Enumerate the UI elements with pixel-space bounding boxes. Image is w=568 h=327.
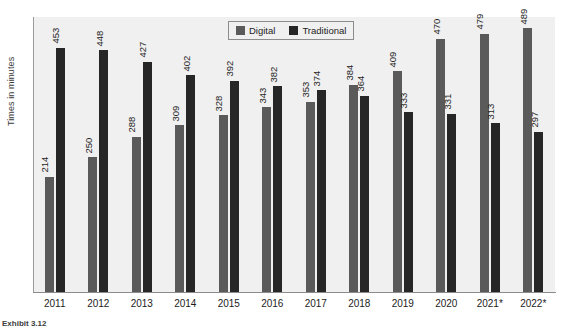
bar-digital-2021[interactable]: 479 <box>480 34 489 292</box>
bar-group: 384364 <box>349 17 369 292</box>
bar-traditional-2015[interactable]: 392 <box>230 81 239 292</box>
bar-value-label: 402 <box>181 55 191 71</box>
bar-value-label: 343 <box>257 87 267 103</box>
bar-value-label: 313 <box>486 103 496 119</box>
bar-value-label: 453 <box>51 28 61 44</box>
legend-label-traditional: Traditional <box>302 25 346 36</box>
bar-traditional-2013[interactable]: 427 <box>143 62 152 292</box>
bar-group: 409333 <box>393 17 413 292</box>
bar-group: 479313 <box>480 17 500 292</box>
bar-value-label: 392 <box>225 61 235 77</box>
bar-group: 288427 <box>132 17 152 292</box>
bar-traditional-2022[interactable]: 297 <box>534 132 543 292</box>
bar-value-label: 250 <box>83 137 93 153</box>
bar-traditional-2011[interactable]: 453 <box>56 48 65 292</box>
bar-value-label: 427 <box>138 42 148 58</box>
bar-value-label: 297 <box>529 112 539 128</box>
bar-traditional-2020[interactable]: 331 <box>447 114 456 292</box>
bar-group: 250448 <box>88 17 108 292</box>
bar-value-label: 309 <box>170 106 180 122</box>
bar-digital-2012[interactable]: 250 <box>88 157 97 292</box>
bar-digital-2022[interactable]: 489 <box>523 28 532 292</box>
bar-group: 343382 <box>262 17 282 292</box>
legend-item-traditional[interactable]: Traditional <box>289 25 346 36</box>
bar-value-label: 489 <box>518 8 528 24</box>
bar-digital-2018[interactable]: 384 <box>349 85 358 292</box>
bar-digital-2020[interactable]: 470 <box>436 39 445 292</box>
bar-value-label: 409 <box>388 52 398 68</box>
bar-traditional-2018[interactable]: 364 <box>360 96 369 292</box>
bar-group: 309402 <box>175 17 195 292</box>
bar-group: 489297 <box>523 17 543 292</box>
legend-item-digital[interactable]: Digital <box>236 25 275 36</box>
bar-value-label: 374 <box>312 70 322 86</box>
bar-value-label: 288 <box>127 117 137 133</box>
bar-group: 470331 <box>436 17 456 292</box>
bar-value-label: 479 <box>475 14 485 30</box>
bar-value-label: 382 <box>268 66 278 82</box>
bar-digital-2014[interactable]: 309 <box>175 125 184 292</box>
legend-swatch-digital <box>236 26 245 35</box>
plot-area <box>33 17 555 293</box>
bar-digital-2017[interactable]: 353 <box>306 102 315 292</box>
bar-value-label: 214 <box>40 157 50 173</box>
bar-traditional-2017[interactable]: 374 <box>317 90 326 292</box>
x-axis-line <box>33 292 556 293</box>
bar-value-label: 353 <box>301 82 311 98</box>
chart-legend: Digital Traditional <box>228 21 354 40</box>
bar-value-label: 331 <box>442 94 452 110</box>
bar-value-label: 328 <box>214 95 224 111</box>
legend-label-digital: Digital <box>249 25 275 36</box>
bar-digital-2015[interactable]: 328 <box>219 115 228 292</box>
bar-traditional-2016[interactable]: 382 <box>273 86 282 292</box>
bar-value-label: 448 <box>94 31 104 47</box>
bar-group: 353374 <box>306 17 326 292</box>
x-tick-label-2022: 2022* <box>503 298 563 309</box>
chart-figure: Times in minutes Digital Traditional 214… <box>0 0 568 327</box>
bar-traditional-2014[interactable]: 402 <box>186 75 195 292</box>
bar-digital-2016[interactable]: 343 <box>262 107 271 292</box>
bar-traditional-2021[interactable]: 313 <box>491 123 500 292</box>
bar-value-label: 384 <box>344 65 354 81</box>
bar-value-label: 333 <box>399 93 409 109</box>
bar-group: 328392 <box>219 17 239 292</box>
y-axis-title: Times in minutes <box>6 26 22 126</box>
bar-traditional-2019[interactable]: 333 <box>404 112 413 292</box>
bar-digital-2011[interactable]: 214 <box>45 177 54 292</box>
bar-digital-2013[interactable]: 288 <box>132 137 141 292</box>
bar-value-label: 364 <box>355 76 365 92</box>
figure-caption: Exhibit 3.12 <box>2 319 46 327</box>
legend-swatch-traditional <box>289 26 298 35</box>
bar-group: 214453 <box>45 17 65 292</box>
bar-traditional-2012[interactable]: 448 <box>99 50 108 292</box>
bar-value-label: 470 <box>431 19 441 35</box>
